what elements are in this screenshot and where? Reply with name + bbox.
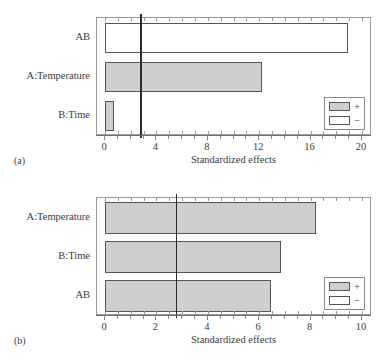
x-minor-tick (284, 136, 285, 139)
category-label-ab: AB (75, 290, 90, 301)
frame-top-tick (105, 198, 106, 201)
legend-swatch-plus (329, 282, 350, 291)
frame-top-tick (182, 18, 183, 21)
legend-row-minus: − (329, 295, 360, 306)
x-minor-tick (233, 136, 234, 139)
x-minor-tick (181, 316, 182, 319)
x-minor-tick (335, 316, 336, 319)
bar-b-time (105, 241, 281, 273)
frame-bottom-tick (298, 311, 299, 314)
frame-bottom-tick (259, 131, 260, 134)
x-tick-label: 2 (140, 322, 170, 333)
frame-top-tick (144, 198, 145, 201)
frame-top-tick (234, 198, 235, 201)
legend-row-plus: + (329, 101, 360, 112)
frame-bottom-tick (311, 131, 312, 134)
frame-top-tick (298, 18, 299, 21)
x-tick-label: 4 (192, 322, 222, 333)
top-ticks-b (97, 198, 370, 201)
frame-top-tick (323, 198, 324, 201)
frame-top-tick (208, 18, 209, 21)
frame-bottom-tick (285, 311, 286, 314)
frame-top-tick (259, 198, 260, 201)
x-minor-tick (104, 316, 105, 319)
x-tick-label: 0 (89, 322, 119, 333)
x-minor-tick (271, 136, 272, 139)
frame-bottom-tick (105, 131, 106, 134)
legend-a: + − (324, 97, 365, 130)
frame-bottom-tick (221, 311, 222, 314)
panel-caption-b: (b) (14, 336, 26, 346)
frame-top-tick (349, 198, 350, 201)
frame-bottom-tick (246, 311, 247, 314)
legend-row-plus: + (329, 281, 360, 292)
x-minor-tick (207, 136, 208, 139)
frame-top-tick (349, 18, 350, 21)
frame-top-tick (311, 18, 312, 21)
frame-top-tick (272, 198, 273, 201)
x-minor-tick (361, 136, 362, 139)
x-tick-label: 20 (346, 142, 376, 153)
x-minor-tick (297, 136, 298, 139)
bar-a-temperature (105, 62, 262, 92)
x-minor-tick (258, 136, 259, 139)
frame-top-tick (285, 198, 286, 201)
x-minor-tick (220, 316, 221, 319)
frame-bottom-tick (118, 131, 119, 134)
legend-label-plus: + (354, 282, 360, 292)
bar-a-temperature (105, 202, 316, 234)
frame-bottom-tick (323, 131, 324, 134)
x-minor-tick (348, 136, 349, 139)
x-minor-tick (220, 136, 221, 139)
frame-top-tick (169, 198, 170, 201)
frame-bottom-tick (272, 131, 273, 134)
x-minor-tick (233, 316, 234, 319)
bottom-inner-ticks-b (97, 311, 370, 314)
frame-top-tick (118, 18, 119, 21)
x-minor-tick (245, 136, 246, 139)
x-minor-tick (310, 136, 311, 139)
x-minor-tick (335, 136, 336, 139)
x-tick-label: 4 (140, 142, 170, 153)
frame-bottom-tick (234, 311, 235, 314)
x-minor-tick (117, 136, 118, 139)
x-minor-tick (143, 316, 144, 319)
frame-top-tick (298, 198, 299, 201)
plot-area-b: + − (96, 197, 371, 315)
x-axis-title-b: Standardized effects (96, 335, 371, 346)
x-minor-tick (130, 136, 131, 139)
frame-bottom-tick (336, 131, 337, 134)
x-axis-title-a: Standardized effects (96, 155, 371, 166)
x-minor-tick (271, 316, 272, 319)
frame-top-tick (131, 198, 132, 201)
legend-b: + − (324, 277, 365, 310)
top-ticks-a (97, 18, 370, 21)
frame-bottom-tick (362, 131, 363, 134)
frame-bottom-tick (131, 131, 132, 134)
frame-top-tick (246, 18, 247, 21)
frame-top-tick (311, 198, 312, 201)
frame-top-tick (362, 198, 363, 201)
frame-top-tick (195, 18, 196, 21)
x-minor-tick (168, 316, 169, 319)
frame-top-tick (182, 198, 183, 201)
frame-bottom-tick (169, 311, 170, 314)
frame-top-tick (144, 18, 145, 21)
frame-top-tick (272, 18, 273, 21)
pareto-chart-figure: + − ABA:TemperatureB:Time 048121620 Stan… (0, 0, 392, 360)
frame-bottom-tick (259, 311, 260, 314)
frame-bottom-tick (349, 131, 350, 134)
legend-label-minus: − (354, 296, 360, 306)
frame-bottom-tick (105, 311, 106, 314)
x-minor-tick (181, 136, 182, 139)
x-tick-label: 8 (295, 322, 325, 333)
frame-bottom-tick (285, 131, 286, 134)
x-minor-tick (130, 316, 131, 319)
x-minor-tick (297, 316, 298, 319)
frame-top-tick (156, 18, 157, 21)
frame-top-tick (118, 198, 119, 201)
frame-bottom-tick (144, 311, 145, 314)
frame-top-tick (362, 18, 363, 21)
x-minor-tick (245, 316, 246, 319)
category-label-a-temperature: A:Temperature (27, 212, 90, 223)
